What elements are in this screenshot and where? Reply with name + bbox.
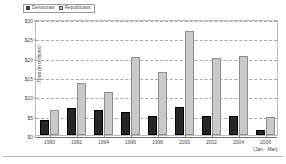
bar-republicans-1992 bbox=[77, 83, 86, 135]
bar-group bbox=[198, 21, 225, 135]
bar-group bbox=[117, 21, 144, 135]
bar-group bbox=[171, 21, 198, 135]
y-tick-label: $20 bbox=[25, 57, 33, 63]
bar-democrats-2000 bbox=[175, 107, 184, 135]
x-tick-mark bbox=[131, 135, 132, 138]
x-tick-mark bbox=[104, 135, 105, 138]
bar-group bbox=[225, 21, 252, 135]
bar-democrats-2004 bbox=[229, 116, 238, 135]
x-tick-label: 1998 bbox=[152, 139, 163, 145]
x-tick-mark bbox=[158, 135, 159, 138]
plot-frame: Total (in millions) $0$5$10$15$20$25$301… bbox=[35, 20, 278, 136]
chart-legend: Democrats Republicans bbox=[23, 4, 95, 13]
x-tick-label: 2002 bbox=[206, 139, 217, 145]
gridline bbox=[36, 137, 277, 138]
x-tick-mark bbox=[239, 135, 240, 138]
x-tick-label: 2006(Jan - Mar) bbox=[253, 139, 277, 152]
y-tick-label: $5 bbox=[27, 115, 33, 121]
bar-republicans-1994 bbox=[104, 92, 113, 135]
bar-republicans-2004 bbox=[239, 56, 248, 135]
bar-group bbox=[36, 21, 63, 135]
bar-democrats-1998 bbox=[148, 116, 157, 135]
bar-group bbox=[144, 21, 171, 135]
x-tick-mark bbox=[77, 135, 78, 138]
y-tick-label: $25 bbox=[25, 37, 33, 43]
chart-figure: Democrats Republicans Total (in millions… bbox=[0, 0, 286, 164]
x-tick-mark bbox=[50, 135, 51, 138]
x-tick-mark bbox=[266, 135, 267, 138]
bar-group bbox=[63, 21, 90, 135]
legend-entry-republicans: Republicans bbox=[59, 6, 91, 11]
bar-republicans-2002 bbox=[212, 58, 221, 135]
y-tick-label: $15 bbox=[25, 76, 33, 82]
x-tick-label: 2000 bbox=[179, 139, 190, 145]
x-tick-mark bbox=[185, 135, 186, 138]
y-tick-label: $0 bbox=[27, 134, 33, 140]
legend-swatch-democrats bbox=[26, 6, 30, 10]
bar-republicans-1990 bbox=[50, 110, 59, 135]
legend-entry-democrats: Democrats bbox=[26, 6, 55, 11]
bar-democrats-2006 bbox=[256, 130, 265, 135]
x-tick-label: 2004 bbox=[233, 139, 244, 145]
footer-divider bbox=[3, 156, 283, 157]
y-tick-label: $10 bbox=[25, 95, 33, 101]
y-tick-label: $30 bbox=[25, 18, 33, 24]
bar-democrats-1994 bbox=[94, 110, 103, 135]
bar-group bbox=[90, 21, 117, 135]
bar-democrats-2002 bbox=[202, 116, 211, 135]
x-tick-mark bbox=[212, 135, 213, 138]
bar-republicans-2000 bbox=[185, 31, 194, 135]
x-tick-label: 1996 bbox=[125, 139, 136, 145]
bar-republicans-1996 bbox=[131, 57, 140, 135]
plot-area: $0$5$10$15$20$25$30199019921994199619982… bbox=[36, 21, 277, 135]
x-tick-label: 1992 bbox=[71, 139, 82, 145]
legend-label-democrats: Democrats bbox=[32, 6, 55, 11]
x-tick-label: 1990 bbox=[44, 139, 55, 145]
bar-group bbox=[252, 21, 279, 135]
bar-republicans-2006 bbox=[266, 117, 275, 135]
x-tick-sublabel: (Jan - Mar) bbox=[253, 146, 277, 152]
x-tick-label: 1994 bbox=[98, 139, 109, 145]
legend-label-republicans: Republicans bbox=[65, 6, 91, 11]
legend-swatch-republicans bbox=[59, 6, 63, 10]
bar-democrats-1990 bbox=[40, 120, 49, 135]
bar-republicans-1998 bbox=[158, 72, 167, 135]
bar-democrats-1992 bbox=[67, 108, 76, 135]
y-tick-mark bbox=[34, 137, 36, 138]
bar-democrats-1996 bbox=[121, 112, 130, 135]
